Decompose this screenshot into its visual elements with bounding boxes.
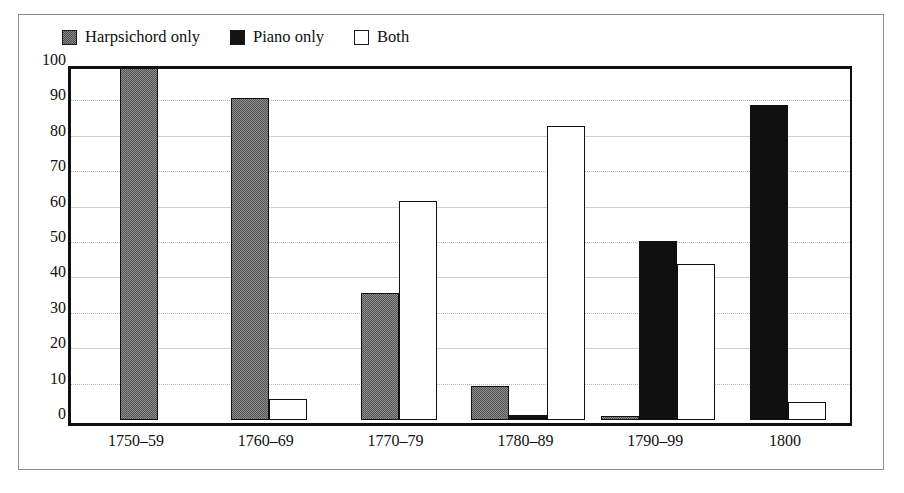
y-tick-label-80: 80 — [22, 122, 66, 140]
legend-item-harpsichord-only[interactable]: Harpsichord only — [62, 29, 200, 46]
both-swatch-icon — [354, 30, 369, 45]
y-tick-label-90: 90 — [22, 86, 66, 104]
y-tick-label-0: 0 — [22, 405, 66, 423]
x-axis-labels: 1750–591760–691770–791780–891790–991800 — [68, 432, 852, 456]
y-tick-label-20: 20 — [22, 334, 66, 352]
bar-both-1770-79[interactable] — [399, 201, 437, 420]
bar-harpsichord-1780-89[interactable] — [471, 386, 509, 420]
piano-swatch-icon — [230, 30, 245, 45]
chart-legend: Harpsichord only Piano only Both — [62, 26, 439, 48]
bars-layer — [74, 72, 848, 420]
bar-harpsichord-1750-59[interactable] — [120, 66, 158, 420]
bar-group-1750-59 — [74, 72, 204, 420]
legend-label-both: Both — [377, 29, 409, 46]
legend-item-piano-only[interactable]: Piano only — [230, 29, 324, 46]
harpsichord-swatch-icon — [62, 30, 77, 45]
y-tick-label-50: 50 — [22, 228, 66, 246]
bar-group-1760-69 — [204, 72, 334, 420]
y-tick-label-100: 100 — [22, 51, 66, 69]
bar-harpsichord-1790-99[interactable] — [601, 416, 639, 420]
x-tick-label-1780-89: 1780–89 — [497, 432, 553, 450]
legend-item-both[interactable]: Both — [354, 29, 409, 46]
y-tick-label-40: 40 — [22, 263, 66, 281]
plot-wrapper: 0102030405060708090100 — [68, 66, 852, 426]
y-tick-label-10: 10 — [22, 370, 66, 388]
bar-group-1790-99 — [593, 72, 723, 420]
chart-figure: Harpsichord only Piano only Both 0102030… — [0, 0, 904, 493]
legend-label-harpsichord-only: Harpsichord only — [85, 29, 200, 46]
bar-harpsichord-1760-69[interactable] — [231, 98, 269, 420]
x-tick-label-1790-99: 1790–99 — [627, 432, 683, 450]
x-tick-label-1800: 1800 — [769, 432, 801, 450]
x-tick-label-1760-69: 1760–69 — [238, 432, 294, 450]
x-tick-label-1770-79: 1770–79 — [368, 432, 424, 450]
y-tick-label-30: 30 — [22, 299, 66, 317]
bar-group-1770-79 — [334, 72, 464, 420]
y-tick-label-70: 70 — [22, 157, 66, 175]
bar-both-1800[interactable] — [788, 402, 826, 420]
bar-both-1790-99[interactable] — [677, 264, 715, 420]
bar-piano-1800[interactable] — [750, 105, 788, 420]
bar-harpsichord-1770-79[interactable] — [361, 293, 399, 420]
bar-piano-1790-99[interactable] — [639, 241, 677, 420]
bar-group-1800 — [723, 72, 852, 420]
legend-label-piano-only: Piano only — [253, 29, 324, 46]
plot-area — [68, 66, 852, 426]
bar-group-1780-89 — [464, 72, 594, 420]
bar-piano-1780-89[interactable] — [509, 415, 547, 420]
x-tick-label-1750-59: 1750–59 — [108, 432, 164, 450]
y-tick-label-60: 60 — [22, 193, 66, 211]
bar-both-1780-89[interactable] — [547, 126, 585, 420]
bar-both-1760-69[interactable] — [269, 399, 307, 420]
